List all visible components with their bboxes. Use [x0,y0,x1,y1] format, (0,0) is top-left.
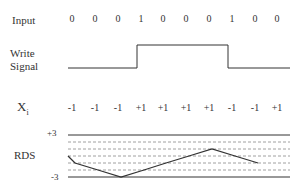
timing-diagram [0,0,298,187]
write-signal-waveform [68,45,290,68]
